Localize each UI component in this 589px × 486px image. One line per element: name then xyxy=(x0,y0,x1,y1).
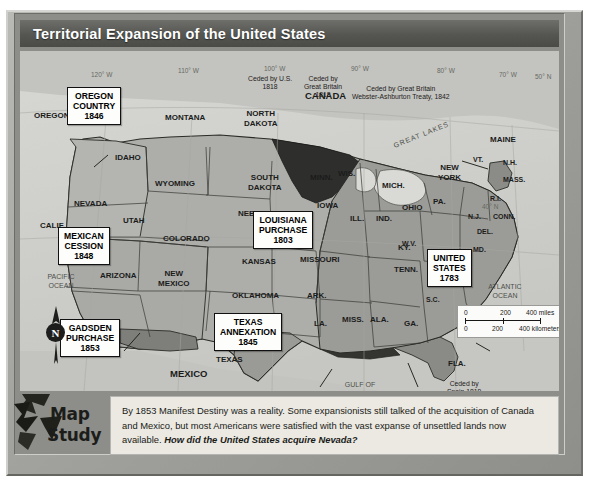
ocean-label-pacific: PACIFIC OCEAN xyxy=(38,273,84,290)
callout-line-1: LOUISIANA xyxy=(259,215,307,225)
state-label-kansas: KANSAS xyxy=(242,257,276,267)
callout-line-2: CESSION xyxy=(64,241,104,251)
state-label-nevada: NEVADA xyxy=(74,199,107,209)
map-study-logo: Map Study xyxy=(14,392,118,460)
callout-line-2: STATES xyxy=(433,263,466,273)
state-label-idaho: IDAHO xyxy=(115,153,141,163)
state-label-ga: GA. xyxy=(404,319,418,329)
callout-louisiana-purchase[interactable]: LOUISIANA PURCHASE 1803 xyxy=(253,211,313,249)
annotation-ceded-by-us-1818: Ceded by U.S. 1818 xyxy=(248,75,292,91)
state-label-south-dakota: SOUTH DAKOTA xyxy=(248,173,282,192)
state-label-new-york: NEW YORK xyxy=(438,163,461,182)
state-label-iowa: IOWA xyxy=(317,201,338,211)
grid-label-40n: 40° N xyxy=(482,203,498,210)
callout-line-1: TEXAS xyxy=(220,317,276,327)
ocean-label-atlantic: ATLANTIC OCEAN xyxy=(480,283,530,300)
callout-line-3: 1845 xyxy=(220,337,276,347)
annotation-ceded-by-great-britain-1818: Ceded by Great Britain 1818 xyxy=(304,75,342,99)
state-label-oregon: OREGON xyxy=(34,111,70,121)
callout-gadsden-purchase[interactable]: GADSDEN PURCHASE 1853 xyxy=(60,319,120,357)
state-label-nh: N.H. xyxy=(503,158,517,168)
callout-line-3: 1848 xyxy=(64,251,104,261)
caption-question: How did the United States acquire Nevada… xyxy=(164,434,357,445)
state-label-arizona: ARIZONA xyxy=(100,271,136,281)
state-label-ark: ARK. xyxy=(307,291,327,301)
callout-line-2: PURCHASE xyxy=(259,225,307,235)
callout-line-3: 1783 xyxy=(433,273,466,283)
scale-kilometers-labels: 0 200 400 kilometers xyxy=(464,325,559,334)
state-label-md: MD. xyxy=(473,245,486,255)
map-canvas: 120° W 110° W 100° W 90° W 80° W 70° W 5… xyxy=(20,51,559,391)
callout-line-1: OREGON xyxy=(73,91,115,101)
country-label-mexico: MEXICO xyxy=(170,369,207,379)
grid-label-120w: 120° W xyxy=(91,71,112,78)
state-label-miss: MISS. xyxy=(342,315,364,325)
callout-mexican-cession[interactable]: MEXICAN CESSION 1848 xyxy=(58,227,110,265)
state-label-minn: MINN. xyxy=(310,173,333,183)
callout-line-3: 1853 xyxy=(66,343,114,353)
page-title: Territorial Expansion of the United Stat… xyxy=(20,26,326,42)
map-title-bar: Territorial Expansion of the United Stat… xyxy=(20,20,559,47)
callout-line-1: UNITED xyxy=(433,253,466,263)
callout-united-states-1783[interactable]: UNITED STATES 1783 xyxy=(427,249,472,287)
callout-line-1: GADSDEN xyxy=(66,323,114,333)
scale-ruler xyxy=(464,318,559,324)
callout-line-1: MEXICAN xyxy=(64,231,104,241)
state-label-ri: R.I. xyxy=(490,194,501,204)
grid-label-110w: 110° W xyxy=(178,67,199,74)
state-label-wyoming: WYOMING xyxy=(155,179,195,189)
state-label-wv: W.V. xyxy=(402,239,416,249)
annotation-webster-ashburton-treaty: Ceded by Great Britain Webster-Ashburton… xyxy=(352,85,450,101)
state-label-ind: IND. xyxy=(376,214,392,224)
grid-label-90w: 90° W xyxy=(351,65,369,72)
state-label-del: DEL. xyxy=(477,227,493,237)
state-label-north-dakota: NORTH DAKOTA xyxy=(244,109,278,128)
state-label-conn: CONN. xyxy=(493,212,516,222)
callout-line-2: ANNEXATION xyxy=(220,327,276,337)
compass-north-marker: N xyxy=(46,323,65,342)
state-label-missouri: MISSOURI xyxy=(300,255,340,265)
state-label-ala: ALA. xyxy=(370,315,389,325)
scale-miles-labels: 0 200 400 miles xyxy=(464,309,559,318)
callout-line-3: 1803 xyxy=(259,235,307,245)
state-label-montana: MONTANA xyxy=(165,113,205,123)
callout-line-2: COUNTRY xyxy=(73,101,115,111)
state-label-la: LA. xyxy=(314,319,327,329)
state-label-wis: WIS. xyxy=(338,169,355,179)
ocean-label-gulf: GULF OF MEXICO xyxy=(338,381,382,391)
state-label-texas: TEXAS xyxy=(216,355,243,365)
state-label-oklahoma: OKLAHOMA xyxy=(232,291,279,301)
grid-label-100w: 100° W xyxy=(264,65,285,72)
callout-line-2: PURCHASE xyxy=(66,333,114,343)
state-label-ill: ILL. xyxy=(350,214,364,224)
state-label-fla: FLA. xyxy=(448,359,466,369)
state-label-vt: VT. xyxy=(473,155,483,165)
state-label-utah: UTAH xyxy=(123,216,145,226)
logo-word-study: Study xyxy=(47,425,101,445)
state-label-mich: MICH. xyxy=(382,181,405,191)
state-label-nj: N.J. xyxy=(468,212,481,222)
state-label-ohio: OHIO xyxy=(402,203,422,213)
annotation-ceded-by-spain-1819-florida: Ceded by Spain 1819 xyxy=(447,380,481,391)
callout-texas-annexation[interactable]: TEXAS ANNEXATION 1845 xyxy=(214,313,282,351)
callout-oregon-country[interactable]: OREGON COUNTRY 1846 xyxy=(67,87,121,125)
grid-label-80w: 80° W xyxy=(437,67,455,74)
state-label-mass: MASS. xyxy=(503,175,525,185)
state-label-colorado: COLORADO xyxy=(163,234,210,244)
map-study-caption: By 1853 Manifest Destiny was a reality. … xyxy=(110,396,559,455)
state-label-pa: PA. xyxy=(433,197,446,207)
logo-word-map: Map xyxy=(50,404,90,424)
caption-paragraph: By 1853 Manifest Destiny was a reality. … xyxy=(122,404,547,448)
grid-label-70w: 70° W xyxy=(499,71,517,78)
map-scale-bar: 0 200 400 miles 0 200 400 kilometers xyxy=(457,305,559,338)
state-label-tenn: TENN. xyxy=(394,265,418,275)
callout-line-3: 1846 xyxy=(73,111,115,121)
state-label-sc: S.C. xyxy=(426,295,440,305)
compass-rose: N xyxy=(46,306,66,366)
state-label-maine: MAINE xyxy=(490,135,516,145)
state-label-new-mexico: NEW MEXICO xyxy=(158,269,190,288)
grid-label-50n: 50° N xyxy=(535,73,551,80)
